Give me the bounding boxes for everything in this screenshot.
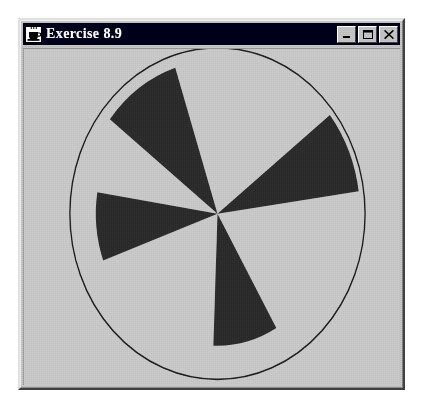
pinwheel-figure [24, 49, 400, 385]
title-bar[interactable]: Exercise 8.9 [23, 23, 400, 45]
canvas-background [24, 49, 400, 385]
java-coffee-cup-icon [25, 26, 42, 43]
window-inner-frame: Exercise 8.9 [20, 20, 403, 388]
close-icon [383, 29, 395, 40]
drawing-canvas [23, 48, 400, 385]
minimize-icon [341, 29, 353, 40]
window-controls [337, 26, 398, 43]
minimize-button[interactable] [337, 26, 356, 43]
maximize-button[interactable] [358, 26, 377, 43]
application-window: Exercise 8.9 [18, 18, 405, 390]
window-title: Exercise 8.9 [46, 26, 337, 42]
screenshot-root: Exercise 8.9 [0, 0, 429, 411]
maximize-icon [362, 29, 374, 40]
close-button[interactable] [379, 26, 398, 43]
